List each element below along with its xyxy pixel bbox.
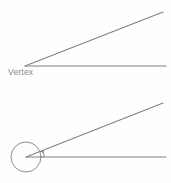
vertex-label: Vertex bbox=[8, 68, 33, 77]
figure-angle-standard-position: Terminal Position Initial Position bbox=[0, 92, 171, 183]
diagram-canvas: Vertex Terminal Position Initial Positio… bbox=[0, 0, 171, 183]
angle-rotation-svg bbox=[0, 92, 171, 183]
figure-angle-with-vertex: Vertex bbox=[0, 0, 171, 92]
angle-vertex-svg bbox=[0, 0, 171, 92]
terminal-ray-line bbox=[26, 103, 163, 157]
upper-ray-line bbox=[25, 12, 163, 66]
